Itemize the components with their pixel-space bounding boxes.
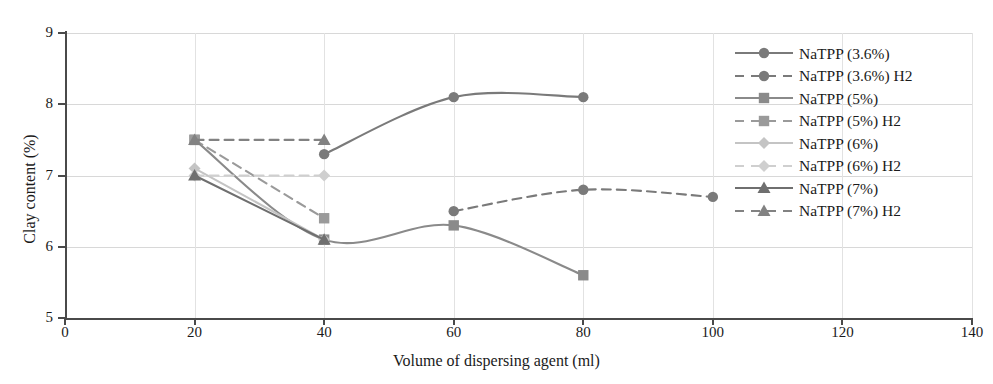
x-tick-label: 0 [45,325,85,340]
x-tick-label: 80 [563,325,603,340]
legend-item-0[interactable]: NaTPP (3.6%) [733,42,913,65]
x-axis-title: Volume of dispersing agent (ml) [0,352,993,370]
x-axis-line [65,318,973,320]
gridline-x-40 [324,33,325,318]
y-axis-title: Clay content (%) [21,79,39,299]
x-tick-label: 120 [822,325,862,340]
legend-marker-icon [733,177,795,199]
legend-label: NaTPP (5%) [795,91,878,107]
y-tick-label: 9 [27,25,53,40]
x-tick-label: 60 [434,325,474,340]
gridline-x-80 [583,33,584,318]
legend-item-1[interactable]: NaTPP (3.6%) H2 [733,65,913,88]
x-tick-label: 100 [693,325,733,340]
legend-item-4[interactable]: NaTPP (6%) [733,132,913,155]
y-tick-8 [58,103,67,105]
legend-label: NaTPP (7%) H2 [795,203,901,219]
legend-marker-icon [733,65,795,87]
gridline-y-9 [65,33,972,34]
y-tick-6 [58,246,67,248]
legend-marker-icon [733,42,795,64]
y-tick-9 [58,32,67,34]
gridline-x-20 [195,33,196,318]
legend-label: NaTPP (5%) H2 [795,113,901,129]
y-axis-title-wrap: Clay content (%) [6,40,30,300]
legend-marker-icon [733,110,795,132]
legend-item-6[interactable]: NaTPP (7%) [733,177,913,200]
x-tick-label: 40 [304,325,344,340]
legend-marker-icon [733,155,795,177]
legend-label: NaTPP (3.6%) [795,46,890,62]
gridline-x-100 [713,33,714,318]
chart-legend: NaTPP (3.6%)NaTPP (3.6%) H2NaTPP (5%)NaT… [733,42,913,222]
legend-item-5[interactable]: NaTPP (6%) H2 [733,155,913,178]
legend-label: NaTPP (7%) [795,181,878,197]
y-tick-7 [58,175,67,177]
legend-item-2[interactable]: NaTPP (5%) [733,87,913,110]
legend-item-3[interactable]: NaTPP (5%) H2 [733,110,913,133]
gridline-x-140 [972,33,973,318]
gridline-y-6 [65,247,972,248]
legend-marker-icon [733,132,795,154]
legend-marker-icon [733,87,795,109]
legend-marker-icon [733,200,795,222]
legend-label: NaTPP (3.6%) H2 [795,68,913,84]
y-tick-label: 5 [27,310,53,325]
legend-label: NaTPP (6%) H2 [795,158,901,174]
x-tick-label: 140 [952,325,992,340]
legend-label: NaTPP (6%) [795,136,878,152]
clay-content-line-chart: 56789 020406080100120140 Clay content (%… [0,0,993,384]
legend-item-7[interactable]: NaTPP (7%) H2 [733,200,913,223]
gridline-x-60 [454,33,455,318]
x-tick-label: 20 [175,325,215,340]
